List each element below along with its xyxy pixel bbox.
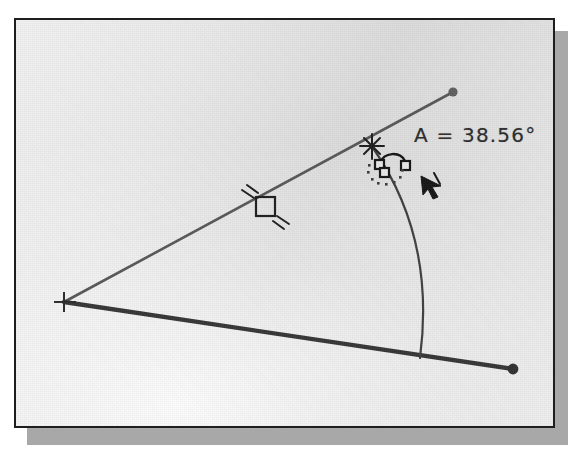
parallel-constraint-marker[interactable] [242, 185, 289, 229]
mouse-cursor-arrow [421, 173, 441, 199]
drawing-vector-layer[interactable] [16, 20, 553, 426]
upper-ray-endpoint-dot[interactable] [448, 87, 457, 96]
drawing-canvas[interactable]: A = 38.56° [14, 18, 555, 428]
constraint-tick-marks [242, 185, 289, 229]
angle-arc[interactable] [373, 148, 423, 358]
lower-ray-endpoint-dot[interactable] [508, 364, 519, 375]
cursor-arrow-tail [434, 173, 440, 184]
vertex-cross-marker [54, 292, 76, 312]
angle-arc-path[interactable] [373, 148, 423, 358]
lower-ray[interactable] [64, 302, 518, 374]
rotate-grip-square-mid[interactable] [380, 168, 389, 177]
constraint-square[interactable] [256, 197, 275, 216]
screenshot-root: A = 38.56° [0, 0, 587, 454]
lower-ray-line[interactable] [64, 302, 513, 369]
snap-point-marker[interactable] [360, 134, 384, 159]
rotate-grip-square-right[interactable] [401, 161, 410, 170]
angle-dimension-label[interactable]: A = 38.56° [414, 123, 536, 147]
